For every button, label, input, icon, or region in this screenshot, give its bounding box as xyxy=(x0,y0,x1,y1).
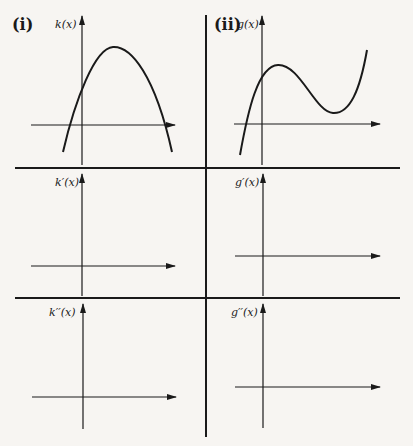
graph-g: (ii) g(x) xyxy=(214,15,380,165)
graph-g-double-prime: g′′(x) xyxy=(231,304,380,428)
axis-label-g-prime: g′(x) xyxy=(235,176,259,189)
curve-k xyxy=(63,47,172,152)
axis-label-k-prime: k′(x) xyxy=(55,176,79,189)
axis-label-g: g(x) xyxy=(237,18,259,31)
graph-g-prime: g′(x) xyxy=(235,174,380,296)
graph-k-prime: k′(x) xyxy=(31,174,175,296)
graph-k-double-prime: k′′(x) xyxy=(32,304,176,429)
axis-label-k-double-prime: k′′(x) xyxy=(49,306,75,319)
axis-label-g-double-prime: g′′(x) xyxy=(231,306,258,319)
axis-label-k: k(x) xyxy=(55,18,76,31)
graph-k: (i) k(x) xyxy=(12,15,175,165)
part-label-i: (i) xyxy=(12,15,33,34)
curve-g xyxy=(240,50,367,155)
derivative-graphs-diagram: (i) k(x) (ii) g(x) k′(x) g′(x) k′′(x) g′… xyxy=(0,0,413,446)
